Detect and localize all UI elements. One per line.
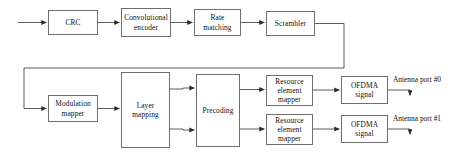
node-ofdma-signal-0-label: OFDMA signal bbox=[351, 81, 378, 99]
node-modulation-mapper[interactable]: Modulation mapper bbox=[48, 95, 98, 122]
edge-ofdma-1-to-antenna-port-1 bbox=[388, 129, 410, 135]
edge-layer-mapping-to-precoding-lower bbox=[170, 129, 195, 130]
node-precoding[interactable]: Precoding bbox=[196, 74, 240, 147]
node-convolutional-encoder[interactable]: Convolutional encoder bbox=[121, 8, 171, 37]
node-resource-element-mapper-0-label: Resource element mapper bbox=[275, 77, 303, 104]
node-rate-matching-label: Rate matching bbox=[203, 13, 231, 31]
antenna-port-0-label: Antenna port #0 bbox=[393, 76, 441, 84]
block-diagram: CRC Convolutional encoder Rate matching … bbox=[0, 0, 469, 162]
node-rate-matching[interactable]: Rate matching bbox=[194, 9, 241, 36]
node-ofdma-signal-1[interactable]: OFDMA signal bbox=[341, 115, 388, 143]
node-resource-element-mapper-1-label: Resource element mapper bbox=[275, 116, 303, 143]
node-resource-element-mapper-0[interactable]: Resource element mapper bbox=[266, 75, 313, 106]
edge-layer-mapping-to-precoding-upper bbox=[170, 88, 195, 89]
node-crc-label: CRC bbox=[65, 18, 80, 27]
node-layer-mapping-label: Layer mapping bbox=[132, 101, 159, 119]
node-resource-element-mapper-1[interactable]: Resource element mapper bbox=[266, 114, 313, 145]
node-modulation-mapper-label: Modulation mapper bbox=[55, 99, 91, 117]
node-layer-mapping[interactable]: Layer mapping bbox=[121, 72, 170, 148]
node-scrambler-label: Scrambler bbox=[275, 19, 306, 28]
edge-ofdma-0-to-antenna-port-0 bbox=[388, 90, 410, 96]
node-ofdma-signal-0[interactable]: OFDMA signal bbox=[341, 76, 388, 104]
node-ofdma-signal-1-label: OFDMA signal bbox=[351, 120, 378, 138]
node-precoding-label: Precoding bbox=[203, 106, 234, 115]
antenna-port-1-label: Antenna port #1 bbox=[393, 115, 441, 123]
node-scrambler[interactable]: Scrambler bbox=[266, 11, 315, 36]
node-convolutional-encoder-label: Convolutional encoder bbox=[124, 13, 168, 31]
node-crc[interactable]: CRC bbox=[48, 10, 98, 35]
